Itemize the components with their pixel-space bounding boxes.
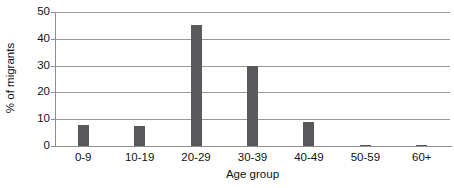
y-tick-label: 20 (24, 86, 50, 98)
y-tick-label: 10 (24, 113, 50, 125)
y-axis-line (55, 12, 56, 147)
gridline (55, 39, 450, 40)
bar (247, 66, 258, 146)
bar-chart: % of migrants 01020304050 0-910-1920-293… (0, 0, 454, 188)
x-tick-label: 10-19 (111, 150, 167, 164)
x-tick-label: 40-49 (281, 150, 337, 164)
y-tick-label: 40 (24, 33, 50, 45)
x-axis-tick-labels: 0-910-1920-2930-3940-4950-5960+ (55, 150, 450, 166)
bar (191, 25, 202, 146)
bar (303, 122, 314, 146)
x-tick-label: 20-29 (168, 150, 224, 164)
x-tick-label: 60+ (394, 150, 450, 164)
y-axis-title: % of migrants (1, 8, 19, 148)
y-tick-label: 0 (24, 140, 50, 152)
y-tick-mark (51, 66, 56, 67)
y-tick-label: 30 (24, 60, 50, 72)
y-tick-label: 50 (24, 6, 50, 18)
gridline (55, 12, 450, 13)
x-axis-title: Age group (55, 168, 450, 180)
x-tick-label: 0-9 (55, 150, 111, 164)
x-tick-label: 50-59 (337, 150, 393, 164)
plot-area (55, 12, 450, 146)
y-tick-mark (51, 39, 56, 40)
bar (78, 125, 89, 146)
x-tick-label: 30-39 (224, 150, 280, 164)
y-tick-mark (51, 92, 56, 93)
y-axis-title-text: % of migrants (4, 43, 16, 113)
x-axis-line (51, 146, 452, 147)
y-tick-mark (51, 12, 56, 13)
y-axis-tick-labels: 01020304050 (22, 0, 50, 188)
bar (134, 126, 145, 146)
y-tick-mark (51, 119, 56, 120)
